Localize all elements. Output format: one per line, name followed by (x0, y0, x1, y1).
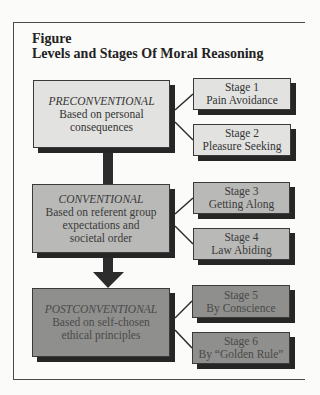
level-preconventional: PRECONVENTIONAL Based on personal conseq… (33, 80, 170, 148)
stage-4-box: Stage 4 Law Abiding (193, 228, 290, 260)
stage-number: Stage 2 (225, 127, 259, 140)
stage-number: Stage 3 (224, 185, 258, 198)
stage-2-box: Stage 2 Pleasure Seeking (193, 124, 291, 156)
level-name: POSTCONVENTIONAL (45, 303, 157, 316)
stage-number: Stage 4 (224, 231, 258, 244)
level-description: Based on personal (59, 108, 143, 121)
level-name: CONVENTIONAL (59, 193, 144, 206)
level-description: societal order (70, 232, 132, 245)
stage-6-box: Stage 6 By “Golden Rule” (192, 332, 290, 364)
stage-number: Stage 6 (224, 335, 258, 348)
level-description: Based on referent group (46, 206, 157, 219)
level-description: ethical principles (62, 329, 141, 342)
stage-name: Getting Along (209, 198, 275, 211)
stage-5-box: Stage 5 By Conscience (192, 285, 290, 318)
stage-number: Stage 1 (225, 81, 259, 94)
level-description: Based on self-chosen (52, 316, 150, 329)
stage-name: Law Abiding (211, 244, 271, 257)
stage-number: Stage 5 (224, 289, 258, 302)
level-connector-1-2 (103, 150, 113, 184)
level-conventional: CONVENTIONAL Based on referent group exp… (32, 184, 170, 253)
stage-name: Pain Avoidance (206, 94, 278, 107)
level-description: consequences (70, 121, 133, 134)
level-postconventional: POSTCONVENTIONAL Based on self-chosen et… (32, 288, 170, 357)
down-arrow-icon (93, 272, 124, 288)
stage-3-box: Stage 3 Getting Along (193, 182, 290, 214)
stage-name: By Conscience (206, 302, 275, 315)
level-connector-2-3 (103, 255, 113, 273)
stage-1-box: Stage 1 Pain Avoidance (193, 78, 291, 110)
level-name: PRECONVENTIONAL (48, 95, 154, 108)
level-description: expectations and (63, 219, 140, 232)
stage-name: By “Golden Rule” (199, 348, 284, 361)
stage-name: Pleasure Seeking (203, 140, 282, 153)
